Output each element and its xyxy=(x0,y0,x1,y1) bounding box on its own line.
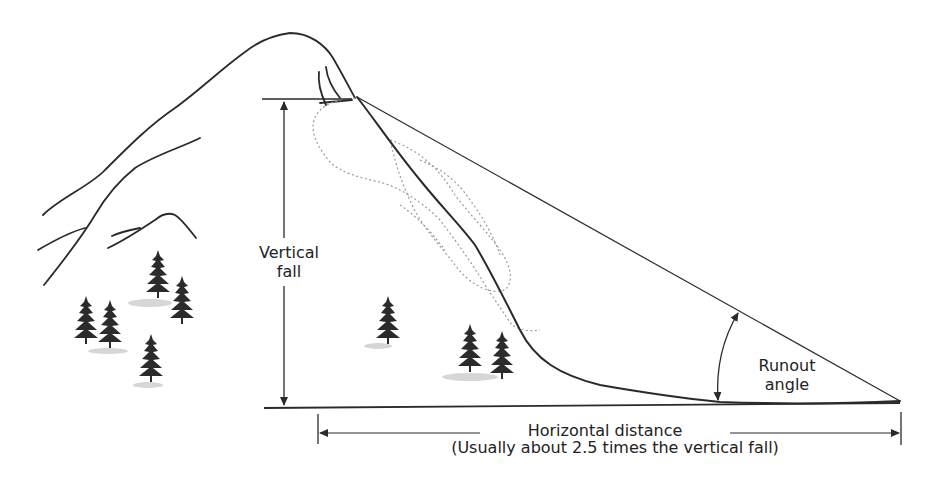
runout-angle-label-line1: Runout xyxy=(742,356,832,375)
vertical-fall-label-line2: fall xyxy=(244,262,334,281)
runout-angle-label-line2: angle xyxy=(742,375,832,394)
avalanche-diagram xyxy=(0,0,934,493)
runout-angle-label: Runout angle xyxy=(742,356,832,394)
runout-angle-arc xyxy=(718,313,738,400)
ground-line xyxy=(264,403,900,408)
avalanche-debris xyxy=(313,98,540,331)
vertical-fall-label: Vertical fall xyxy=(244,243,334,281)
vertical-fall-label-line1: Vertical xyxy=(244,243,334,262)
horizontal-distance-note: (Usually about 2.5 times the vertical fa… xyxy=(330,438,900,457)
